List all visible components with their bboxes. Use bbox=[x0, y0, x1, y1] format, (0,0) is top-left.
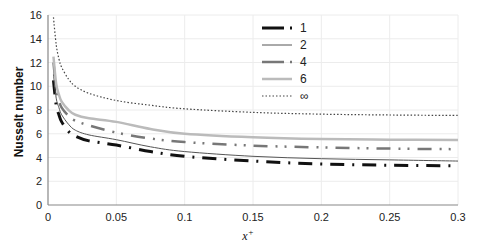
series-line-2 bbox=[53, 74, 458, 161]
series-line-6 bbox=[53, 57, 458, 140]
legend-label: 6 bbox=[300, 72, 307, 86]
data-series bbox=[53, 17, 458, 165]
x-tick-label: 0.05 bbox=[106, 211, 127, 223]
y-tick-label: 14 bbox=[30, 33, 42, 45]
y-axis-label: Nusselt number bbox=[12, 66, 26, 157]
y-tick-label: 4 bbox=[36, 152, 42, 164]
y-tick-label: 0 bbox=[36, 199, 42, 211]
y-tick-label: 10 bbox=[30, 80, 42, 92]
y-tick-labels: 0246810121416 bbox=[30, 9, 42, 211]
series-line-inf bbox=[53, 17, 458, 115]
y-tick-label: 8 bbox=[36, 104, 42, 116]
nusselt-chart: 0246810121416 00.050.10.150.20.250.3 Nus… bbox=[0, 0, 482, 246]
x-tick-label: 0.2 bbox=[314, 211, 329, 223]
x-tick-labels: 00.050.10.150.20.250.3 bbox=[45, 211, 466, 223]
y-tick-label: 2 bbox=[36, 175, 42, 187]
legend-label: 4 bbox=[300, 55, 307, 69]
y-tick-label: 6 bbox=[36, 128, 42, 140]
x-tick-label: 0.3 bbox=[450, 211, 465, 223]
x-tick-label: 0 bbox=[45, 211, 51, 223]
x-tick-label: 0.1 bbox=[177, 211, 192, 223]
grid-lines bbox=[48, 15, 458, 205]
x-tick-label: 0.25 bbox=[379, 211, 400, 223]
x-axis-label: x+ bbox=[241, 227, 253, 243]
series-line-1 bbox=[53, 80, 458, 166]
y-tick-label: 16 bbox=[30, 9, 42, 21]
legend-label: 2 bbox=[300, 38, 307, 52]
y-tick-label: 12 bbox=[30, 57, 42, 69]
legend-label: ∞ bbox=[300, 89, 309, 103]
x-tick-label: 0.15 bbox=[242, 211, 263, 223]
legend-label: 1 bbox=[300, 21, 307, 35]
